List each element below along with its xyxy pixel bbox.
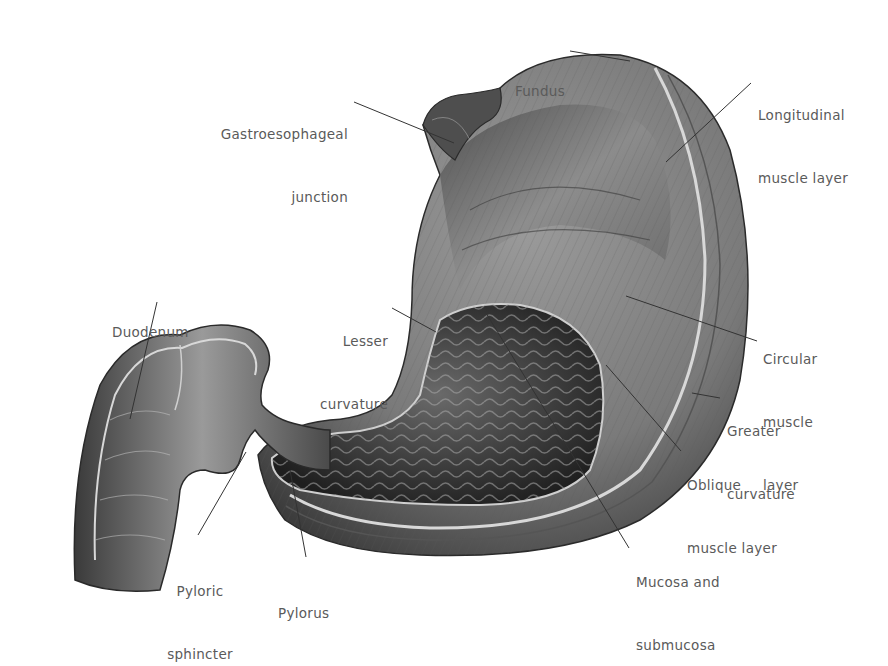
label-pylorus: Pylorus (278, 561, 358, 645)
label-pyloric-sphincter: Pyloric sphincter (155, 539, 245, 666)
label-mucosa-and-submucosa: Mucosa and submucosa (636, 530, 756, 666)
label-fundus: Fundus (505, 39, 565, 123)
label-longitudinal-muscle-layer: Longitudinal muscle layer (758, 63, 888, 210)
label-gastroesophageal-junction: Gastroesophageal junction (200, 82, 348, 229)
label-lesser-curvature: Lesser curvature (300, 289, 388, 436)
label-duodenum: Duodenum (112, 280, 212, 364)
